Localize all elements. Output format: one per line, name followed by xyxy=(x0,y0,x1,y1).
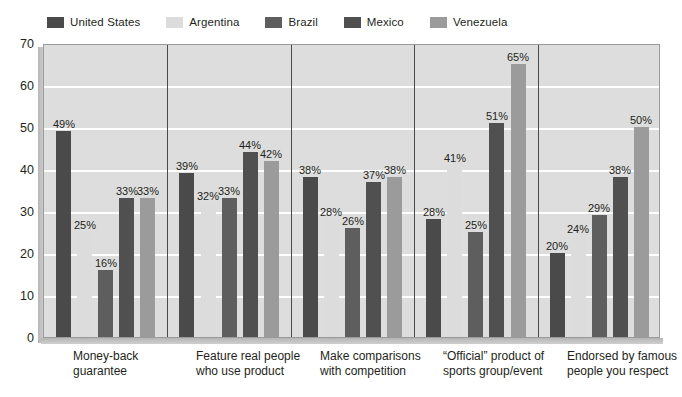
group-separator xyxy=(291,45,292,337)
legend-swatch-icon xyxy=(344,17,361,28)
bar-value-label: 49% xyxy=(53,118,75,130)
bar xyxy=(303,177,318,337)
bar-value-label: 26% xyxy=(342,215,364,227)
bar-value-label: 38% xyxy=(299,164,321,176)
bar xyxy=(634,127,649,337)
bar-value-label: 51% xyxy=(486,110,508,122)
legend-swatch-icon xyxy=(47,17,64,28)
bar xyxy=(98,270,113,337)
bar-value-label: 42% xyxy=(260,148,282,160)
bar-value-label: 20% xyxy=(546,240,568,252)
bar-value-label: 28% xyxy=(423,206,445,218)
x-axis-category-labels: Money-back guaranteeFeature real people … xyxy=(38,349,660,391)
legend-item: Brazil xyxy=(265,16,317,28)
bar xyxy=(179,173,194,337)
plot-frame: 49%25%16%33%33%39%32%33%44%42%38%28%26%3… xyxy=(38,44,660,340)
chart-legend: United StatesArgentinaBrazilMexicoVenezu… xyxy=(47,14,534,30)
legend-item-label: United States xyxy=(70,16,140,28)
plot-area: 49%25%16%33%33%39%32%33%44%42%38%28%26%3… xyxy=(43,44,660,338)
bar-value-label: 25% xyxy=(74,219,96,231)
bar xyxy=(345,228,360,337)
y-axis-tick-label: 10 xyxy=(0,289,34,303)
gridline xyxy=(44,170,659,172)
y-axis-tick-label: 50 xyxy=(0,121,34,135)
bar-value-label: 33% xyxy=(116,185,138,197)
bar xyxy=(468,232,483,337)
legend-item-label: Mexico xyxy=(367,16,404,28)
legend-item: Mexico xyxy=(344,16,404,28)
x-axis-category-label: Make comparisons with competition xyxy=(320,349,443,379)
bar-value-label: 39% xyxy=(176,160,198,172)
bar xyxy=(243,152,258,337)
bar-value-label: 33% xyxy=(218,185,240,197)
bar xyxy=(511,64,526,337)
y-axis-tick-label: 70 xyxy=(0,37,34,51)
bar xyxy=(613,177,628,337)
legend-swatch-icon xyxy=(265,17,282,28)
bar xyxy=(77,232,92,337)
legend-item-label: Brazil xyxy=(288,16,317,28)
bar-value-label: 38% xyxy=(609,164,631,176)
bar-value-label: 16% xyxy=(95,257,117,269)
x-axis-category-label: “Official” product of sports group/event xyxy=(443,349,566,379)
gridline xyxy=(44,128,659,130)
legend-item: United States xyxy=(47,16,140,28)
y-axis-tick-label: 60 xyxy=(0,79,34,93)
legend-item-label: Argentina xyxy=(189,16,239,28)
bar xyxy=(140,198,155,337)
bar-value-label: 32% xyxy=(197,190,219,202)
x-axis-category-label: Feature real people who use product xyxy=(196,349,319,379)
legend-swatch-icon xyxy=(430,17,447,28)
group-separator xyxy=(538,45,539,337)
legend-item-label: Venezuela xyxy=(453,16,508,28)
plot-bottom-shadow xyxy=(41,338,663,344)
bar xyxy=(426,219,441,337)
bar-value-label: 41% xyxy=(444,152,466,164)
bar xyxy=(592,215,607,337)
bar-value-label: 44% xyxy=(239,139,261,151)
x-axis-category-label: Endorsed by famous people you respect xyxy=(567,349,682,379)
bar-value-label: 65% xyxy=(507,51,529,63)
bar-value-label: 29% xyxy=(588,202,610,214)
group-separator xyxy=(167,45,168,337)
bar xyxy=(222,198,237,337)
x-axis-category-label: Money-back guarantee xyxy=(73,349,196,379)
bar xyxy=(201,203,216,337)
bar xyxy=(324,219,339,337)
bar-value-label: 50% xyxy=(630,114,652,126)
y-axis-tick-label: 20 xyxy=(0,247,34,261)
bar xyxy=(550,253,565,337)
y-axis-tick-label: 30 xyxy=(0,205,34,219)
bar-value-label: 33% xyxy=(137,185,159,197)
y-axis: 010203040506070 xyxy=(0,44,34,340)
bar xyxy=(119,198,134,337)
legend-swatch-icon xyxy=(166,17,183,28)
bar xyxy=(56,131,71,337)
bar-value-label: 25% xyxy=(465,219,487,231)
gridline xyxy=(44,86,659,88)
bar-value-label: 28% xyxy=(320,206,342,218)
legend-item: Venezuela xyxy=(430,16,508,28)
legend-item: Argentina xyxy=(166,16,239,28)
bar xyxy=(366,182,381,337)
gridline xyxy=(44,212,659,214)
bar xyxy=(447,165,462,337)
y-axis-tick-label: 40 xyxy=(0,163,34,177)
bar-value-label: 24% xyxy=(567,223,589,235)
bar-value-label: 37% xyxy=(363,169,385,181)
bar xyxy=(264,161,279,337)
group-separator xyxy=(414,45,415,337)
bar xyxy=(489,123,504,337)
y-axis-tick-label: 0 xyxy=(0,331,34,345)
bar xyxy=(571,236,586,337)
bar-value-label: 38% xyxy=(384,164,406,176)
bar xyxy=(387,177,402,337)
